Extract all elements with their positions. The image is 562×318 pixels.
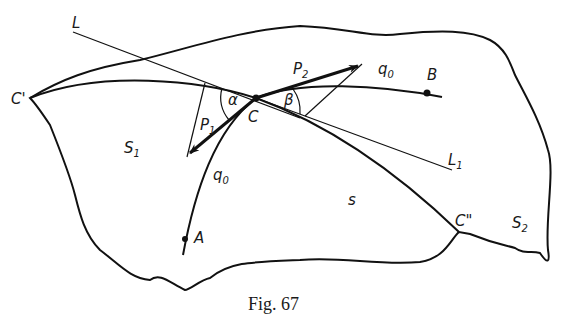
region-boundary xyxy=(30,26,551,290)
label-A: A xyxy=(193,229,204,247)
P2-projection xyxy=(305,64,362,116)
label-C-prime: C' xyxy=(11,90,26,108)
label-C: C xyxy=(248,108,259,126)
line-L xyxy=(73,32,300,118)
diagram-canvas: L C' C α β B A s C" S1 S2 L1 P2 P1 q0 q0… xyxy=(0,0,562,318)
label-q0-upper: q0 xyxy=(378,60,394,80)
point-B xyxy=(424,90,431,97)
curve-s xyxy=(30,81,459,232)
label-s: s xyxy=(348,191,356,209)
label-C-double-prime: C" xyxy=(455,212,472,230)
label-P2: P2 xyxy=(293,60,308,80)
label-beta: β xyxy=(283,91,294,109)
point-A xyxy=(182,236,188,242)
label-B: B xyxy=(427,66,437,84)
label-L: L xyxy=(72,14,80,32)
angle-beta-arc xyxy=(293,89,300,114)
label-L1: L1 xyxy=(448,151,463,171)
figure-caption: Fig. 67 xyxy=(248,294,299,314)
label-P1: P1 xyxy=(200,116,215,136)
figure-67: L C' C α β B A s C" S1 S2 L1 P2 P1 q0 q0… xyxy=(0,0,562,318)
label-q0-lower: q0 xyxy=(213,166,229,186)
label-S2: S2 xyxy=(512,214,528,234)
label-S1: S1 xyxy=(124,139,140,159)
label-alpha: α xyxy=(228,91,238,109)
